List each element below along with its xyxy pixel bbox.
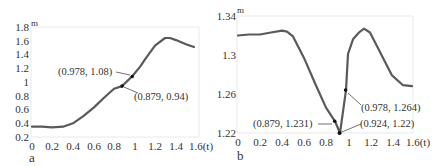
y-tick: 1.22 — [217, 127, 236, 139]
chart-b-annotation-1: (0.879, 1.231) — [253, 118, 313, 130]
y-tick: 1.8 — [15, 21, 29, 33]
chart-a-arrow-2 — [124, 87, 138, 93]
chart-a-annotation-1: (0.978, 1.08) — [58, 66, 113, 78]
chart-a-y-unit: m — [31, 18, 38, 28]
x-tick: 0.4 — [275, 136, 289, 148]
y-tick: 1.34 — [217, 10, 237, 22]
y-tick: 1.26 — [217, 88, 237, 100]
chart-a-frame — [31, 27, 199, 137]
chart-b-annotation-2: (0.924, 1.22) — [360, 118, 415, 130]
y-tick: 1.2 — [15, 62, 29, 74]
x-tick: 1.2 — [364, 136, 378, 148]
figure: 0.2 0.4 0.6 0.8 1 1.2 1.4 1.6 1.8 m 0 0.… — [0, 0, 448, 166]
x-tick: 1.2 — [148, 140, 162, 152]
y-tick: 0.8 — [15, 90, 29, 102]
chart-b-y-ticks: 1.22 1.26 1.3 1.34 — [217, 10, 237, 139]
chart-b-point-0978 — [344, 88, 348, 92]
chart-b-point-0924 — [338, 131, 342, 135]
chart-a: 0.2 0.4 0.6 0.8 1 1.2 1.4 1.6 1.8 m 0 0.… — [15, 18, 213, 165]
y-tick: 1.6 — [15, 35, 29, 47]
x-tick: 1.4 — [386, 136, 400, 148]
x-tick: 0 — [235, 136, 241, 148]
chart-a-curve — [32, 38, 194, 127]
x-tick: 1 — [132, 140, 138, 152]
y-tick: 1.4 — [15, 48, 29, 60]
chart-b-panel-label: b — [237, 148, 244, 163]
chart-a-annotation-2: (0.879, 0.94) — [134, 91, 189, 103]
chart-a-point-0879 — [120, 84, 124, 88]
x-tick: 1.6(t) — [406, 136, 430, 149]
y-tick: 0.6 — [15, 103, 29, 115]
chart-b-point-0879 — [333, 120, 337, 124]
chart-a-panel-label: a — [29, 150, 35, 165]
x-tick: 0.6 — [297, 136, 311, 148]
x-tick: 1.6(t) — [189, 140, 213, 153]
chart-b: 1.22 1.26 1.3 1.34 m 0 0.2 0.4 0.6 0.8 1… — [217, 5, 431, 163]
chart-b-x-ticks: 0 0.2 0.4 0.6 0.8 1 1.2 1.4 1.6(t) — [235, 136, 430, 149]
x-tick: 0.4 — [66, 140, 80, 152]
x-tick: 0.6 — [87, 140, 101, 152]
x-tick: 1.4 — [169, 140, 183, 152]
chart-a-x-ticks: 0 0.2 0.4 0.6 0.8 1 1.2 1.4 1.6(t) — [29, 140, 213, 153]
x-tick: 1 — [346, 136, 352, 148]
chart-b-arrow-2 — [342, 124, 361, 132]
chart-a-point-0978 — [130, 75, 134, 79]
y-tick: 0.2 — [15, 131, 29, 143]
chart-a-y-ticks: 0.2 0.4 0.6 0.8 1 1.2 1.4 1.6 1.8 — [15, 21, 29, 143]
chart-a-arrow-1 — [116, 72, 130, 75]
chart-b-y-unit: m — [237, 5, 244, 15]
x-tick: 0.8 — [107, 140, 121, 152]
x-tick: 0.8 — [319, 136, 333, 148]
chart-b-annotation-3: (0.978, 1.264) — [361, 102, 421, 114]
chart-b-arrow-3 — [348, 93, 361, 105]
x-tick: 0.2 — [45, 140, 59, 152]
y-tick: 1.3 — [222, 49, 236, 61]
y-tick: 1 — [24, 76, 30, 88]
y-tick: 0.4 — [15, 117, 29, 129]
x-tick: 0.2 — [253, 136, 267, 148]
